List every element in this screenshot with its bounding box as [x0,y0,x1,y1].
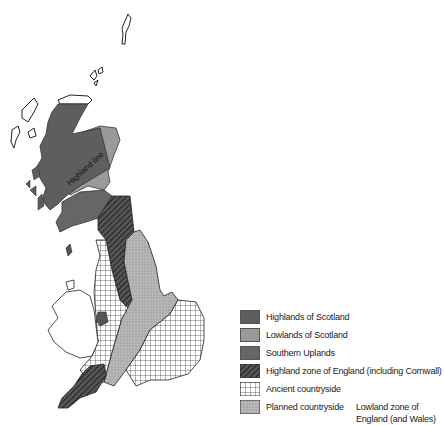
legend-item-southern-uplands: Southern Uplands [240,345,335,361]
swatch-planned-countryside [240,400,260,414]
legend-item-lowlands-of-scotland: Lowlands of Scotland [240,327,348,343]
north-coast-white [58,95,92,104]
legend-label: Lowlands of Scotland [266,330,348,340]
legend-item-highlands-of-scotland: Highlands of Scotland [240,309,349,325]
legend-label: Ancient countryside [266,384,341,394]
note-line-1: Lowland zone of [356,401,436,413]
swatch-highland-zone-england [240,364,260,378]
swatch-ancient-countryside [240,382,260,396]
legend-label: Highlands of Scotland [266,312,349,322]
legend-label: Highland zone of England (including Corn… [266,366,442,376]
legend-item-planned-countryside: Planned countryside [240,399,344,415]
isle-of-man [66,244,72,256]
outer-hebrides [11,98,38,148]
anglesey [66,280,74,290]
region-wales [48,290,98,358]
note-line-2: England (and Wales) [356,413,436,425]
swatch-southern-uplands [240,346,260,360]
swatch-lowlands-of-scotland [240,328,260,342]
legend-label: Planned countryside [266,402,344,412]
orkney-islands [90,67,103,86]
legend-item-ancient-countryside: Ancient countryside [240,381,341,397]
lowland-zone-note: Lowland zone of England (and Wales) [356,401,436,425]
legend-label: Southern Uplands [266,348,335,358]
swatch-highlands-of-scotland [240,310,260,324]
shetland-islands [122,14,131,44]
legend-item-highland-zone-england: Highland zone of England (including Corn… [240,363,442,379]
